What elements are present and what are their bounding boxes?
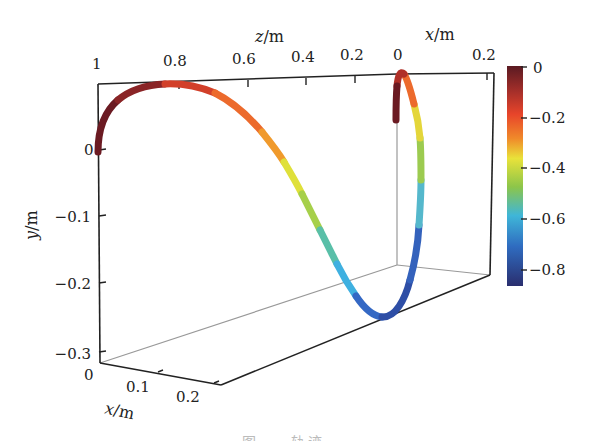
colorbar-tick: −0.6 <box>529 210 565 228</box>
z-axis: z/m 1 0.8 0.6 0.4 0.2 <box>92 27 364 73</box>
z-axis-title: z/m <box>254 27 284 46</box>
colorbar-tick: −0.8 <box>529 261 565 279</box>
figure-caption: 图 … 轨迹 … <box>0 432 592 441</box>
z-tick: 1 <box>92 55 102 73</box>
axis-ticks <box>99 73 487 383</box>
x-top-tick: 0.2 <box>472 46 496 64</box>
colorbar-tick: −0.4 <box>529 159 565 177</box>
y-axis-title: y/m <box>22 210 41 241</box>
x-top-tick: 0 <box>393 46 403 64</box>
z-tick: 0.6 <box>232 50 256 68</box>
z-tick: 0.4 <box>291 48 315 66</box>
axis-box-back <box>100 74 490 363</box>
z-tick: 0.8 <box>163 52 187 70</box>
colorbar-tick: −0.2 <box>529 109 565 127</box>
y-axis: y/m 0 −0.1 −0.2 −0.3 <box>22 141 94 363</box>
y-tick: −0.3 <box>55 345 91 363</box>
x-axis-bottom: 0 0.1 0.2 x/m <box>84 366 200 423</box>
chart-svg: z/m 1 0.8 0.6 0.4 0.2 x/m 0 0.2 y/m 0 −0… <box>0 0 592 441</box>
axis-box-front <box>98 73 494 385</box>
x-bottom-tick: 0 <box>84 366 94 384</box>
z-tick: 0.2 <box>340 46 364 64</box>
x-axis-top: x/m 0 0.2 <box>393 25 496 64</box>
y-tick: −0.2 <box>55 275 91 293</box>
trajectory-curve <box>98 73 421 317</box>
x-bottom-tick: 0.1 <box>126 378 150 396</box>
colorbar-tick: 0 <box>533 59 543 77</box>
colorbar-gradient <box>507 66 523 286</box>
x-axis-top-title: x/m <box>425 25 455 44</box>
x-axis-bottom-title: x/m <box>103 398 136 423</box>
colorbar: 0 −0.2 −0.4 −0.6 −0.8 <box>507 59 565 286</box>
y-tick: 0 <box>84 141 94 159</box>
x-bottom-tick: 0.2 <box>176 388 200 406</box>
y-tick: −0.1 <box>55 208 91 226</box>
